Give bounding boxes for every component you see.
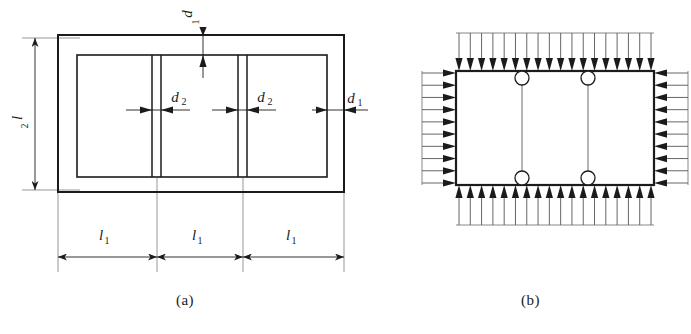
load-arrow-head-right-3	[654, 106, 667, 113]
load-arrow-head-right-4	[654, 118, 667, 125]
dimension-d2-left-arrow-right	[140, 106, 152, 113]
panel-b: (b)	[370, 0, 691, 334]
panel-a-drawing: l 2 d 1 d 1	[0, 0, 370, 300]
load-arrow-head-top-12	[591, 58, 598, 71]
dimension-l1-bay-2-subscript: 1	[198, 235, 203, 246]
plate-outline	[456, 71, 654, 185]
load-arrow-head-bottom-3	[489, 185, 496, 198]
load-arrow-head-right-1	[654, 82, 667, 89]
load-arrow-head-bottom-13	[602, 185, 609, 198]
load-arrow-head-bottom-0	[455, 185, 462, 198]
load-arrow-head-top-16	[636, 58, 643, 71]
dimension-l1-bay-1: l 1	[58, 227, 157, 257]
load-arrow-head-bottom-5	[512, 185, 519, 198]
load-arrow-head-left-1	[443, 82, 456, 89]
load-arrow-head-top-11	[580, 58, 587, 71]
load-arrow-head-top-2	[478, 58, 485, 71]
load-arrow-head-bottom-16	[636, 185, 643, 198]
dimension-d1-top-arrow-up	[199, 55, 206, 67]
dimension-l2-subscript: 2	[19, 124, 30, 129]
dimension-d2-right-label: d	[257, 89, 265, 105]
dimension-l1-bay-3-label: l	[286, 227, 290, 243]
load-arrow-head-bottom-15	[625, 185, 632, 198]
load-arrow-head-top-9	[557, 58, 564, 71]
plate-internal-ribs	[522, 79, 588, 177]
dimension-l2: l 2	[9, 38, 35, 190]
load-arrow-head-top-3	[489, 58, 496, 71]
dimension-l1-bay-1-label: l	[99, 227, 103, 243]
load-arrow-head-right-0	[654, 69, 667, 76]
load-arrow-head-top-0	[455, 58, 462, 71]
dimension-l2-label: l	[9, 116, 25, 120]
dimension-d2-left-arrow-left	[161, 106, 173, 113]
hinge-bottom-right	[581, 171, 595, 185]
load-arrow-head-top-14	[614, 58, 621, 71]
load-arrow-head-bottom-14	[614, 185, 621, 198]
dimension-l1-bay-3: l 1	[243, 227, 344, 257]
dimension-d2-right-arrow-right	[226, 106, 238, 113]
load-arrow-head-right-2	[654, 94, 667, 101]
load-arrow-head-bottom-10	[568, 185, 575, 198]
figure-root: l 2 d 1 d 1	[0, 0, 691, 334]
load-arrow-head-top-8	[546, 58, 553, 71]
dimension-l1-bay-2: l 1	[157, 227, 243, 257]
hinge-top-right	[581, 71, 595, 85]
load-arrow-head-bottom-17	[647, 185, 654, 198]
load-arrow-head-bottom-11	[580, 185, 587, 198]
dimension-d2-right-subscript: 2	[268, 96, 273, 107]
dimension-l1-group: l 1 l 1 l 1	[58, 227, 344, 257]
panel-b-drawing	[370, 0, 691, 300]
panel-a-caption: (a)	[0, 292, 370, 309]
load-arrow-head-left-2	[443, 94, 456, 101]
dimension-d1-top-label: d	[179, 10, 195, 18]
load-arrow-head-top-4	[501, 58, 508, 71]
load-arrow-head-bottom-9	[557, 185, 564, 198]
dimension-d1-right-subscript: 1	[358, 97, 363, 108]
load-arrow-head-top-1	[467, 58, 474, 71]
load-arrow-head-right-9	[654, 179, 667, 186]
load-arrow-head-top-10	[568, 58, 575, 71]
hinge-top-left	[515, 71, 529, 85]
hinge-bottom-left	[515, 171, 529, 185]
load-arrow-head-right-7	[654, 155, 667, 162]
load-arrow-head-left-3	[443, 106, 456, 113]
load-arrows-right	[654, 69, 688, 186]
load-arrow-head-top-13	[602, 58, 609, 71]
dimension-d2-right-arrow-left	[247, 106, 259, 113]
inner-slab-outline	[77, 55, 327, 177]
panel-a: l 2 d 1 d 1	[0, 0, 370, 334]
load-arrow-head-left-8	[443, 167, 456, 174]
load-arrow-head-bottom-2	[478, 185, 485, 198]
dimension-d1-top-subscript: 1	[190, 20, 201, 25]
internal-ribs	[152, 55, 247, 177]
load-arrow-head-left-6	[443, 143, 456, 150]
load-arrow-head-top-7	[534, 58, 541, 71]
load-arrow-head-right-6	[654, 143, 667, 150]
dimension-d1-right-arrow-left	[316, 106, 327, 113]
load-arrow-head-left-4	[443, 118, 456, 125]
load-arrow-head-left-5	[443, 131, 456, 138]
load-arrow-head-left-9	[443, 179, 456, 186]
load-arrows-bottom	[455, 185, 654, 225]
dimension-l1-bay-2-label: l	[192, 227, 196, 243]
dimension-d2-left: d 2	[126, 89, 190, 114]
dimension-d1-right: d 1	[312, 90, 368, 114]
dimension-l1-bay-3-subscript: 1	[292, 235, 297, 246]
load-arrow-head-right-5	[654, 131, 667, 138]
dimension-d2-right: d 2	[212, 89, 276, 114]
dimension-d1-right-label: d	[347, 90, 355, 106]
load-arrows-top	[455, 33, 654, 71]
outer-slab-outline	[58, 35, 344, 192]
dimension-d2-left-label: d	[171, 89, 179, 105]
load-arrow-head-bottom-6	[523, 185, 530, 198]
dimension-l1-bay-1-subscript: 1	[105, 235, 110, 246]
load-arrow-head-bottom-1	[467, 185, 474, 198]
dimension-d2-left-subscript: 2	[182, 96, 187, 107]
panel-b-caption: (b)	[370, 292, 691, 309]
hinge-circles	[515, 71, 595, 185]
load-arrow-head-bottom-4	[501, 185, 508, 198]
dimension-d1-top: d 1	[179, 10, 207, 78]
load-arrow-head-top-17	[647, 58, 654, 71]
load-arrow-head-right-8	[654, 167, 667, 174]
load-arrow-head-top-5	[512, 58, 519, 71]
